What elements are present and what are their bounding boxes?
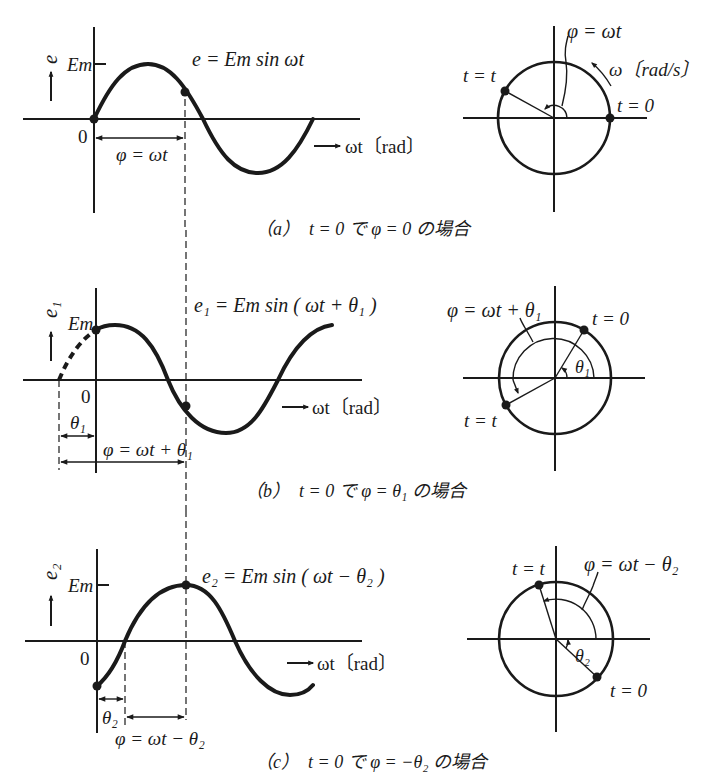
phase-diagram: e Em 0 e = Em sin ωt φ = ωt ωt〔rad〕 φ = … — [0, 0, 720, 779]
current-point — [182, 581, 191, 590]
equation-label: e₂ = Em sin ( ωt − θ₂ ) — [202, 565, 385, 588]
phasor-phase-label: φ = ωt − θ₂ — [584, 553, 679, 576]
point-0-label: t = 0 — [617, 95, 655, 116]
offset-angle-arc — [562, 368, 567, 378]
panel-c-phasor: t = t φ = ωt − θ₂ θ₂ t = 0 — [467, 546, 679, 732]
offset-angle-arc — [566, 640, 568, 648]
point-0-label: t = 0 — [592, 308, 630, 329]
phase-label: φ = ωt − θ₂ — [115, 728, 205, 749]
point-t — [502, 401, 511, 410]
point-t — [501, 87, 510, 96]
panel-c-waveform: e₂ Em 0 e₂ = Em sin ( ωt − θ₂ ) θ₂ φ = ω… — [25, 549, 397, 749]
phasor-vector — [505, 91, 554, 118]
x-axis-label: ωt〔rad〕 — [345, 136, 425, 157]
offset-label: θ₂ — [102, 707, 118, 728]
start-point — [90, 115, 99, 124]
amplitude-label: Em — [67, 313, 93, 334]
offset-label: θ₁ — [70, 412, 86, 433]
amplitude-label: Em — [67, 575, 93, 596]
point-t-label: t = t — [512, 558, 546, 579]
point-0-label: t = 0 — [610, 680, 648, 701]
current-point — [182, 402, 191, 411]
start-point — [93, 682, 102, 691]
y-axis-label: e₁ — [38, 301, 62, 318]
phase-arc — [544, 599, 596, 639]
phasor-offset-label: θ₁ — [575, 357, 590, 377]
caption-c: （c） t = 0 で φ = −θ₂ の場合 — [255, 752, 489, 772]
caption-b: （b） t = 0 で φ = θ₁ の場合 — [245, 481, 468, 501]
current-point — [181, 88, 190, 97]
phase-label: φ = ωt + θ₁ — [103, 439, 193, 460]
x-axis-label: ωt〔rad〕 — [312, 397, 392, 418]
phasor-vector-t — [539, 585, 556, 639]
point-0 — [593, 673, 602, 682]
phase-arc-arrow — [513, 380, 518, 393]
origin-label: 0 — [81, 386, 91, 407]
point-t-label: t = t — [463, 65, 497, 86]
point-0 — [606, 114, 615, 123]
y-axis-label: e — [38, 55, 62, 64]
panel-a-phasor: φ = ωt ω〔rad/s〕 t = t t = 0 — [463, 20, 699, 212]
point-0 — [580, 326, 589, 335]
phase-leader-line — [562, 36, 568, 106]
angular-velocity-label: ω〔rad/s〕 — [609, 59, 699, 80]
caption-a: （a） t = 0 で φ = 0 の場合 — [255, 219, 472, 239]
phasor-offset-label: θ₂ — [575, 646, 590, 666]
point-t-label: t = t — [464, 410, 498, 431]
phase-leader-line — [520, 318, 533, 342]
phase-label: φ = ωt — [116, 144, 168, 165]
phase-angle-arc — [545, 105, 567, 118]
panel-b-waveform: e₁ Em 0 e₁ = Em sin ( ωt + θ₁ ) θ₁ φ = ω… — [23, 288, 392, 473]
equation-label: e₁ = Em sin ( ωt + θ₁ ) — [194, 294, 377, 317]
phasor-phase-label: φ = ωt — [567, 20, 622, 43]
hidden-curve-segment — [59, 330, 96, 380]
origin-label: 0 — [80, 648, 90, 669]
phasor-phase-label: φ = ωt + θ₁ — [447, 299, 542, 322]
origin-label: 0 — [78, 126, 88, 147]
y-axis-label: e₂ — [38, 563, 62, 580]
panel-b-phasor: φ = ωt + θ₁ θ₁ t = 0 t = t — [447, 286, 645, 471]
equation-label: e = Em sin ωt — [192, 48, 304, 70]
amplitude-label: Em — [66, 54, 92, 75]
point-t — [535, 581, 544, 590]
x-axis-label: ωt〔rad〕 — [317, 653, 397, 674]
panel-a-waveform: e Em 0 e = Em sin ωt φ = ωt ωt〔rad〕 — [23, 27, 425, 213]
